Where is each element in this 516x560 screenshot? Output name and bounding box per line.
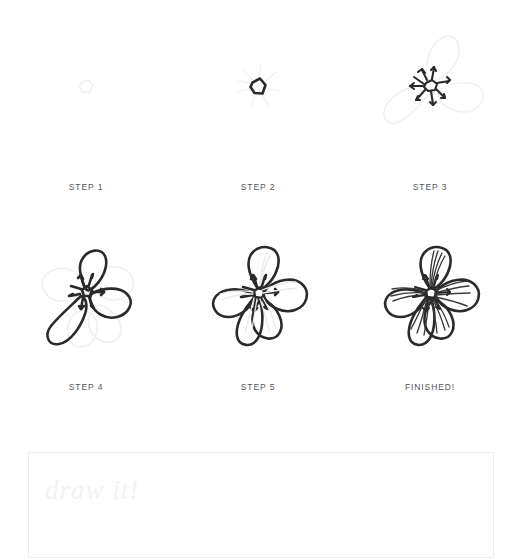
step-3-illustration bbox=[355, 12, 505, 162]
step-6-illustration bbox=[355, 214, 505, 364]
step-card-2: STEP 2 bbox=[172, 0, 344, 200]
step-4-label: STEP 4 bbox=[69, 382, 104, 392]
step-card-3: STEP 3 bbox=[344, 0, 516, 200]
step-2-label: STEP 2 bbox=[241, 182, 276, 192]
step-card-5: STEP 5 bbox=[172, 200, 344, 415]
step-5-illustration bbox=[183, 214, 333, 364]
step-2-illustration bbox=[183, 12, 333, 162]
step-5-label: STEP 5 bbox=[241, 382, 276, 392]
practice-area[interactable]: draw it! bbox=[28, 452, 494, 558]
practice-prompt: draw it! bbox=[45, 475, 139, 506]
step-1-illustration bbox=[11, 12, 161, 162]
step-card-4: STEP 4 bbox=[0, 200, 172, 415]
step-1-label: STEP 1 bbox=[69, 182, 104, 192]
step-4-illustration bbox=[11, 214, 161, 364]
step-3-label: STEP 3 bbox=[413, 182, 448, 192]
step-card-1: STEP 1 bbox=[0, 0, 172, 200]
steps-grid: STEP 1 STEP 2 bbox=[0, 0, 516, 415]
step-card-6: FINISHED! bbox=[344, 200, 516, 415]
step-6-label: FINISHED! bbox=[405, 382, 455, 392]
worksheet-sheet: STEP 1 STEP 2 bbox=[0, 0, 516, 560]
